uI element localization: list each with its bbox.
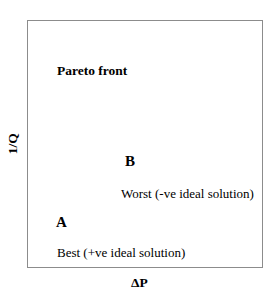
worst-solution-annotation: Worst (-ve ideal solution) (121, 187, 254, 200)
pareto-front-label: Pareto front (57, 64, 127, 78)
plot-frame (27, 20, 263, 268)
pareto-front-figure: Pareto front B A Worst (-ve ideal soluti… (0, 0, 279, 298)
y-axis-label: 1/Q (6, 127, 20, 161)
x-axis-label: ΔP (131, 276, 148, 290)
solution-point-b-label: B (125, 154, 135, 169)
solution-point-a-label: A (56, 215, 67, 230)
best-solution-annotation: Best (+ve ideal solution) (57, 246, 185, 259)
